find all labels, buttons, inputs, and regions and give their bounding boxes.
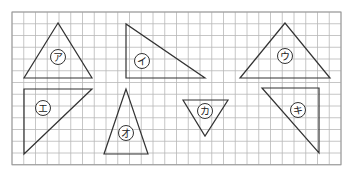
triangle-label: キ [293,105,303,116]
triangle-3: ウ [240,23,330,78]
triangle-outline [24,89,92,154]
triangle-label: エ [38,103,48,114]
triangle-1: ア [24,23,92,78]
triangle-label: カ [200,106,210,117]
triangle-label: イ [137,56,147,67]
triangle-label: ア [53,52,63,63]
triangle-2: イ [126,24,205,78]
triangles: アイウエオカキ [24,23,330,154]
triangle-outline [126,24,205,78]
triangle-4: エ [24,89,92,154]
grid-diagram: アイウエオカキ [0,0,350,176]
triangle-label: ウ [280,51,290,62]
triangle-label: オ [121,128,131,139]
